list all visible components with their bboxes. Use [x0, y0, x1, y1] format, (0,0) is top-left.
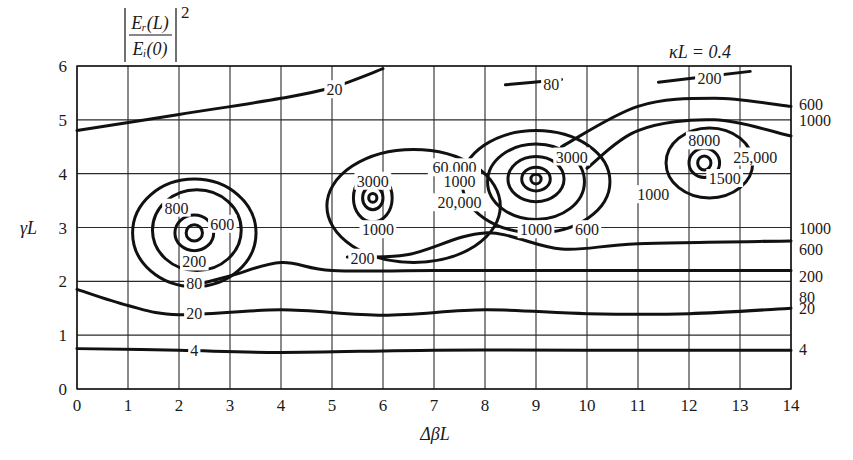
contour-line-80 [189, 262, 791, 286]
contour-label: 1000 [637, 186, 669, 203]
x-axis-label: ΔβL [419, 424, 450, 444]
contour-loop [175, 215, 214, 251]
right-edge-label: 4 [799, 341, 807, 358]
chart-subtitle: κL = 0.4 [669, 42, 731, 62]
contour-label: 600 [210, 216, 234, 233]
x-tick-label: 2 [175, 396, 184, 415]
y-tick-label: 5 [59, 111, 68, 130]
contour-label: 1500 [709, 170, 741, 187]
x-tick-label: 8 [481, 396, 490, 415]
x-tick-label: 6 [379, 396, 388, 415]
right-edge-label: 600 [799, 241, 823, 258]
contour-label: 4 [190, 342, 198, 359]
x-tick-label: 1 [124, 396, 133, 415]
contour-line-200 [347, 233, 791, 257]
y-tick-label: 3 [59, 219, 68, 238]
x-tick-label: 13 [732, 396, 749, 415]
y-tick-label: 0 [59, 380, 68, 399]
right-edge-label: 20 [799, 300, 815, 317]
y-tick-label: 1 [59, 326, 68, 345]
title-denominator: Eᵢ(0) [132, 39, 168, 60]
y-axis-label: γL [20, 218, 37, 238]
contour-label: 3000 [357, 173, 389, 190]
right-edge-label: 1000 [799, 112, 831, 129]
x-tick-label: 3 [226, 396, 235, 415]
x-tick-label: 0 [73, 396, 82, 415]
x-tick-label: 5 [328, 396, 337, 415]
contour-label: 80 [543, 76, 559, 93]
contour-label: 1000 [444, 173, 476, 190]
x-tick-label: 11 [630, 396, 646, 415]
contour-label: 200 [697, 70, 721, 87]
x-tick-label: 14 [783, 396, 801, 415]
x-tick-label: 4 [277, 396, 286, 415]
x-tick-label: 9 [532, 396, 541, 415]
contour-label: 1000 [520, 221, 552, 238]
contour-loop [369, 194, 377, 203]
x-tick-label: 7 [430, 396, 439, 415]
contour-label: 20 [327, 81, 343, 98]
right-edge-label: 200 [799, 268, 823, 285]
contour-loop [698, 156, 711, 170]
y-tick-label: 4 [59, 165, 68, 184]
contour-label: 20 [186, 305, 202, 322]
title-numerator: Eᵣ(L) [130, 13, 168, 34]
contour-label: 3000 [556, 149, 588, 166]
right-edge-label: 600 [799, 96, 823, 113]
contour-label: 8000 [688, 132, 720, 149]
contour-label: 600 [575, 221, 599, 238]
x-tick-label: 10 [579, 396, 596, 415]
contour-label: 200 [351, 250, 375, 267]
contour-label: 1000 [362, 221, 394, 238]
contour-label: 20,000 [438, 194, 482, 211]
x-tick-label: 12 [681, 396, 698, 415]
right-edge-label: 1000 [799, 220, 831, 237]
y-tick-label: 2 [59, 272, 68, 291]
y-tick-label: 6 [59, 57, 68, 76]
title-exponent: 2 [181, 3, 190, 22]
contour-label: 25,000 [733, 149, 777, 166]
contour-label: 80 [186, 275, 202, 292]
contour-label: 800 [164, 200, 188, 217]
contour-label: 200 [182, 253, 206, 270]
contour-chart: 012345678910111213140123456ΔβLγLEᵣ(L)Eᵢ(… [0, 0, 853, 460]
